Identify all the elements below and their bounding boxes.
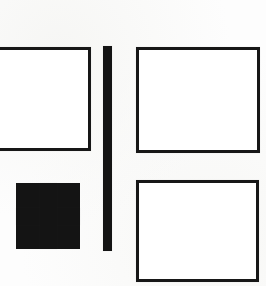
bottom-right-rectangle xyxy=(136,180,259,282)
left-rectangle xyxy=(0,47,91,151)
plus-sign-vertical-bar xyxy=(40,183,57,249)
vertical-divider-bar xyxy=(103,46,112,251)
diagram-canvas xyxy=(0,0,266,286)
top-right-rectangle xyxy=(136,47,260,153)
plus-sign xyxy=(16,183,80,249)
